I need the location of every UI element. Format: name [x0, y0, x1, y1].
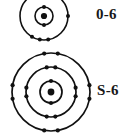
sulfur-shell-3-electron	[42, 128, 46, 132]
atom-diagram-oxygen	[18, 0, 70, 42]
sulfur-shell-2-electron	[53, 115, 57, 119]
sulfur-shell-1-electron	[49, 101, 53, 105]
sulfur-shell-3-electron	[87, 83, 91, 87]
sulfur-shell-3-electron	[11, 83, 15, 87]
atom-label-oxygen: 0-6	[96, 7, 117, 22]
oxygen-shell-2-electron	[38, 38, 42, 42]
oxygen-shell-2-electron	[30, 35, 34, 39]
sulfur-shell-2-electron	[24, 94, 28, 98]
oxygen-shell-1-electron	[42, 5, 46, 9]
sulfur-shell-2-electron	[53, 65, 57, 69]
sulfur-shell-3-electron	[56, 128, 60, 132]
bohr-model-diagram: 0-6 S-6	[0, 0, 132, 134]
sulfur-shell-3-electron	[56, 52, 60, 56]
sulfur-shell-2-electron	[74, 94, 78, 98]
sulfur-shell-2-electron	[45, 115, 49, 119]
nucleus-dot-icon	[48, 89, 55, 96]
sulfur-shell-1-electron	[49, 79, 53, 83]
sulfur-shell-2-electron	[24, 86, 28, 90]
nucleus-dot-icon	[41, 13, 47, 19]
sulfur-shell-3-electron	[87, 97, 91, 101]
sulfur-shell-3-electron	[42, 52, 46, 56]
sulfur-shell-3-electron	[11, 97, 15, 101]
oxygen-shell-2-electron	[66, 14, 70, 18]
oxygen-shell-2-electron	[46, 38, 50, 42]
sulfur-shell-2-electron	[74, 86, 78, 90]
atom-diagram-sulfur	[10, 51, 92, 133]
oxygen-shell-1-electron	[42, 23, 46, 27]
sulfur-shell-2-electron	[45, 65, 49, 69]
atom-label-sulfur: S-6	[97, 83, 119, 98]
